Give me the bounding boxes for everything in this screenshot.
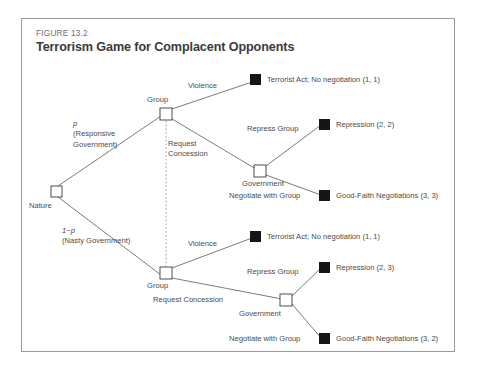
request-top-line2: Concession <box>168 149 208 158</box>
prob-bottom-line2: (Nasty Government) <box>62 236 130 245</box>
outcome-label-repression-top: Repression (2, 2) <box>336 120 394 130</box>
node-label-group-top: Group <box>147 95 168 105</box>
prob-top-line3: Government) <box>73 140 117 149</box>
edge-label-request-bottom: Request Concession <box>153 295 223 305</box>
request-top-line1: Request <box>168 139 196 148</box>
node-label-government-bottom: Government <box>239 309 281 319</box>
node-label-group-bottom: Group <box>147 281 168 291</box>
terminal-node-t5 <box>319 262 330 273</box>
node-government-top <box>254 165 266 177</box>
edge-label-negotiate-top: Negotiate with Group <box>229 191 300 201</box>
edge-label-repress-top: Repress Group <box>247 124 299 134</box>
node-nature <box>51 186 62 197</box>
figure-frame: FIGURE 13.2 Terrorism Game for Complacen… <box>21 18 455 352</box>
edge-label-violence-bottom: Violence <box>188 239 217 249</box>
edge-label-repress-bottom: Repress Group <box>247 267 299 277</box>
game-tree-graphic <box>22 19 456 353</box>
outcome-label-repression-bottom: Repression (2, 3) <box>336 263 394 273</box>
outcome-label-negotiations-top: Good-Faith Negotiations (3, 3) <box>336 191 438 201</box>
outcome-label-terrorist-act-bottom: Terrorist Act; No negotiation (1, 1) <box>267 232 380 242</box>
terminal-node-t4 <box>250 231 261 242</box>
prob-top-symbol: p <box>73 119 77 128</box>
node-group-top <box>160 108 172 120</box>
prob-bottom-symbol: 1−p <box>62 226 75 235</box>
edge-label-violence-top: Violence <box>188 81 217 91</box>
terminal-node-t6 <box>319 333 330 344</box>
edge-label-request-top: Request Concession <box>168 139 208 159</box>
node-government-bottom <box>280 294 292 306</box>
terminal-node-t1 <box>250 74 261 85</box>
prob-top-line2: (Responsive <box>73 129 115 138</box>
prob-label-one-minus-p: 1−p (Nasty Government) <box>62 226 130 247</box>
terminal-node-t2 <box>319 119 330 130</box>
edge-label-negotiate-bottom: Negotiate with Group <box>229 334 300 344</box>
node-label-nature: Nature <box>29 201 52 211</box>
outcome-label-negotiations-bottom: Good-Faith Negotiations (3, 2) <box>336 334 438 344</box>
prob-label-p: p (Responsive Government) <box>73 119 117 150</box>
outcome-label-terrorist-act-top: Terrorist Act; No negotiation (1, 1) <box>267 75 380 85</box>
edge-gov-bottom-negotiate <box>292 304 321 338</box>
node-group-bottom <box>160 267 172 279</box>
terminal-node-t3 <box>319 190 330 201</box>
node-label-government-top: Government <box>242 179 284 189</box>
